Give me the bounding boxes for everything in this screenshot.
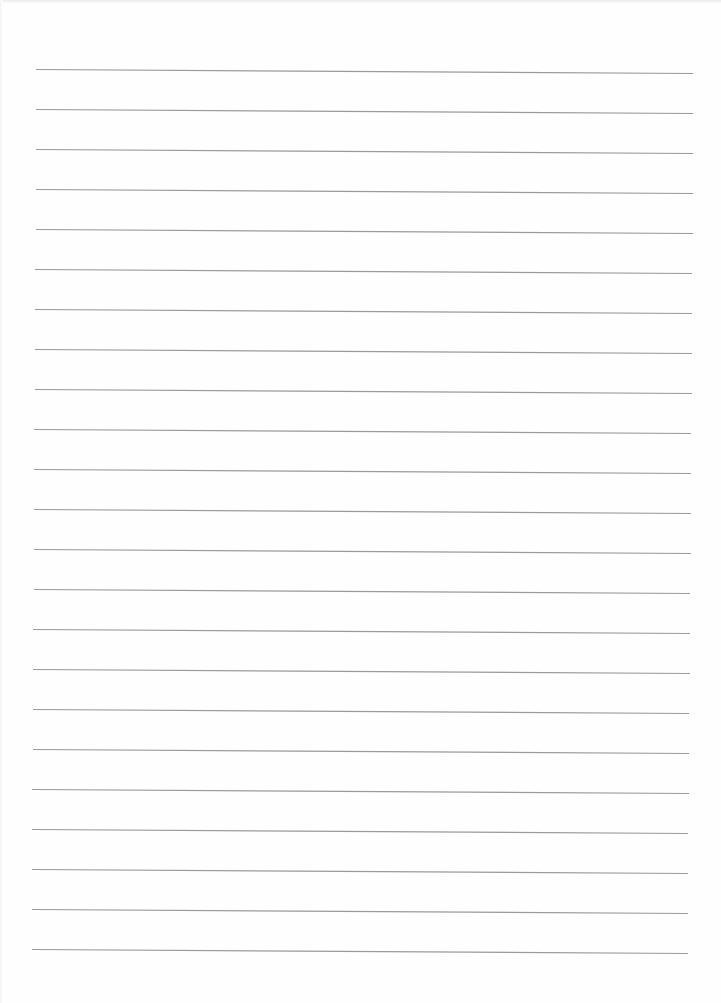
ruled-line [33, 710, 689, 714]
ruled-line [36, 110, 693, 114]
lined-paper-page [0, 0, 721, 1003]
ruled-line [32, 790, 689, 794]
ruled-line [34, 430, 691, 434]
ruled-line [34, 510, 691, 514]
ruled-line [32, 910, 688, 914]
ruled-line [34, 550, 691, 554]
ruled-line [35, 310, 692, 314]
ruled-line [33, 630, 690, 634]
ruled-line [35, 270, 692, 274]
ruled-line [32, 870, 688, 874]
ruled-line [34, 470, 691, 474]
ruled-line [33, 750, 689, 754]
ruled-line [33, 670, 690, 674]
ruled-line [36, 190, 693, 194]
ruled-lines [0, 0, 721, 1003]
ruled-line [32, 830, 688, 834]
ruled-line [34, 590, 690, 594]
ruled-line [36, 230, 693, 234]
ruled-line [35, 390, 692, 394]
ruled-line [36, 70, 693, 74]
ruled-line [32, 950, 688, 954]
ruled-line [35, 350, 692, 354]
ruled-line [36, 150, 693, 154]
